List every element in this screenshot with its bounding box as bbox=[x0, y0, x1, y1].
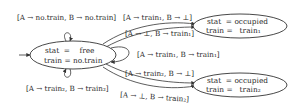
state-occ1-line1: stat = occupied bbox=[207, 17, 268, 26]
label-free-to-occ1-a: [A → train₁, B → ⊥] bbox=[123, 13, 192, 22]
label-self-top: [A → no.train, B → no.train] bbox=[17, 13, 116, 22]
state-occ2-line1: stat = occupied bbox=[207, 76, 268, 85]
edge-self-top bbox=[64, 33, 70, 41]
label-self-right: [A → train₁, B → train₁] bbox=[137, 50, 220, 59]
state-occ2-line2: train = train₂ bbox=[206, 85, 261, 94]
state-occupied-train1: stat = occupied train = train₁ bbox=[193, 14, 287, 38]
edge-self-bottom bbox=[64, 69, 70, 77]
state-free: stat = free train = no.train bbox=[30, 41, 116, 69]
label-self-bottom: [A → train₂, B → train₂] bbox=[26, 84, 109, 93]
label-free-to-occ2-b: [A → ⊥, B → train₂] bbox=[120, 90, 190, 104]
label-free-to-occ2-a: [A → train₂, B → ⊥] bbox=[125, 69, 194, 78]
state-occupied-train2: stat = occupied train = train₂ bbox=[193, 73, 287, 97]
label-free-to-occ1-b: [A → ⊥, B → train₁] bbox=[125, 29, 194, 38]
state-occ1-line2: train = train₁ bbox=[206, 26, 261, 35]
state-diagram: [A → no.train, B → no.train] [A → train₂… bbox=[0, 0, 292, 109]
state-free-line1: stat = free bbox=[45, 46, 94, 55]
state-free-line2: train = no.train bbox=[44, 56, 103, 65]
